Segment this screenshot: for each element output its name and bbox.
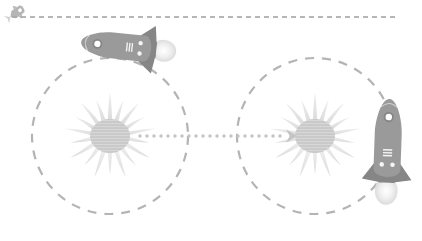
- connector-dots: [138, 134, 281, 137]
- scene-svg: [0, 0, 422, 241]
- rocket-right: [361, 98, 414, 205]
- small-rocket-shape: [2, 1, 28, 26]
- dotted-connector-arrow: [138, 129, 297, 143]
- diagram-canvas: Two suns with dashed orbits connected by…: [0, 0, 422, 241]
- sun-right: [270, 92, 361, 177]
- rocket-right-body: [373, 99, 403, 178]
- sun-group: [65, 92, 361, 177]
- small-rocket-icon: [2, 1, 28, 26]
- orbit-circles: [32, 58, 393, 214]
- rocket-left-body: [80, 29, 153, 62]
- sun-left-core: [90, 119, 130, 153]
- sun-right-core: [295, 119, 335, 153]
- sun-left: [65, 92, 156, 177]
- rocket-group: [79, 18, 415, 205]
- rocket-left: [79, 18, 179, 76]
